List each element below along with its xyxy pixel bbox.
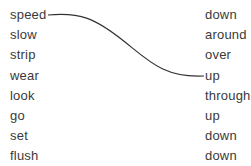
- connection-line-speed-up: [0, 0, 251, 166]
